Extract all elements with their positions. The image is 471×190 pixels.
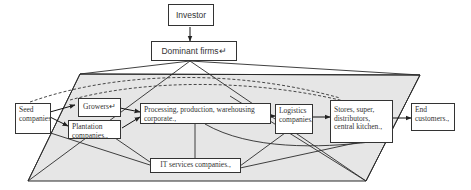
growers-label: Growers↵ xyxy=(83,103,116,112)
supply-chain-diagram: Investor Dominant firms↵ Seed companies.… xyxy=(0,0,471,190)
processing-label: Processing, production, warehousing corp… xyxy=(144,105,255,123)
logistics-node: Logistics companies., xyxy=(275,104,313,134)
investor-label: Investor xyxy=(176,10,206,20)
investor-node: Investor xyxy=(168,4,214,26)
it-services-label: IT services companies., xyxy=(160,161,231,170)
stores-node: Stores, super, distributors, central kit… xyxy=(330,100,393,143)
plantation-companies-label: Plantation companies., xyxy=(72,122,108,139)
growers-node: Growers↵ xyxy=(78,98,121,117)
seed-companies-node: Seed companies., xyxy=(15,103,51,134)
end-customers-label: End customers., xyxy=(415,105,449,123)
end-customers-node: End customers., xyxy=(411,103,455,131)
processing-node: Processing, production, warehousing corp… xyxy=(140,103,271,124)
logistics-label: Logistics companies., xyxy=(279,106,313,124)
plantation-companies-node: Plantation companies., xyxy=(68,120,121,139)
stores-label: Stores, super, distributors, central kit… xyxy=(334,105,382,131)
dominant-firms-node: Dominant firms↵ xyxy=(151,41,237,61)
it-services-node: IT services companies., xyxy=(150,158,241,173)
dominant-firms-label: Dominant firms↵ xyxy=(161,46,226,56)
seed-companies-label: Seed companies., xyxy=(19,105,51,123)
